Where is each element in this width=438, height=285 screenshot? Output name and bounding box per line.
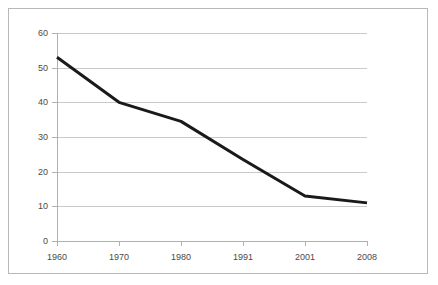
data-series-line — [9, 9, 429, 275]
chart-plot-area: 0102030405060 196019701980199120012008 — [9, 9, 427, 273]
chart-frame: 0102030405060 196019701980199120012008 — [8, 8, 428, 274]
